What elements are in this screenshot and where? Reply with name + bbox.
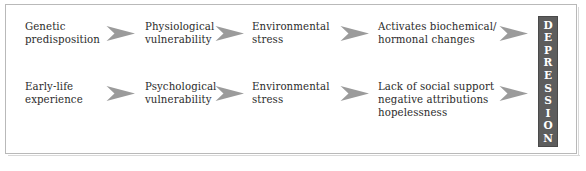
outcome-letter: D <box>543 19 552 32</box>
arrow-right-icon <box>499 84 529 103</box>
figure-root: Genetic predisposition Physiological vul… <box>0 0 586 171</box>
outcome-letter: E <box>544 31 552 44</box>
outcome-letter: S <box>544 82 552 95</box>
stage-lack-of-social-support: Lack of social support negative attribut… <box>378 80 494 120</box>
arrow-right-icon <box>106 84 136 103</box>
stage-psychological-vulnerability: Psychological vulnerability <box>145 80 216 106</box>
arrow-right-icon <box>215 84 245 103</box>
stage-line: Activates biochemical/ <box>378 20 497 33</box>
arrow-right-icon <box>340 24 370 43</box>
arrow-right-icon <box>340 84 370 103</box>
stage-line: predisposition <box>25 33 100 46</box>
pathway-row-biological: Genetic predisposition Physiological vul… <box>0 20 572 76</box>
stage-line: stress <box>252 33 330 46</box>
outcome-letter: S <box>544 94 552 107</box>
arrow-right-icon <box>499 24 529 43</box>
stage-line: Physiological <box>145 20 214 33</box>
stage-activates-biochemical-hormonal-changes: Activates biochemical/ hormonal changes <box>378 20 497 46</box>
stage-line: hormonal changes <box>378 33 497 46</box>
outcome-letter: O <box>543 119 552 132</box>
outcome-letter: I <box>546 107 551 120</box>
arrow-right-icon <box>106 24 136 43</box>
stage-line: Genetic <box>25 20 100 33</box>
stage-line: Psychological <box>145 80 216 93</box>
stage-line: vulnerability <box>145 93 216 106</box>
outcome-letter: E <box>544 69 552 82</box>
stage-line: Environmental <box>252 20 330 33</box>
stage-line: vulnerability <box>145 33 214 46</box>
stage-physiological-vulnerability: Physiological vulnerability <box>145 20 214 46</box>
stage-line: stress <box>252 93 330 106</box>
outcome-letter: R <box>544 56 553 69</box>
arrow-right-icon <box>215 24 245 43</box>
stage-line: Early-life <box>25 80 83 93</box>
stage-environmental-stress-bottom: Environmental stress <box>252 80 330 106</box>
stage-line: hopelessness <box>378 106 494 119</box>
outcome-letter: N <box>543 132 553 145</box>
stage-line: Lack of social support <box>378 80 494 93</box>
stage-environmental-stress-top: Environmental stress <box>252 20 330 46</box>
outcome-depression-box: D E P R E S S I O N <box>538 16 558 147</box>
stage-line: experience <box>25 93 83 106</box>
pathway-row-psychosocial: Early-life experience Psychological vuln… <box>0 80 572 136</box>
frame-shadow-bottom <box>8 155 580 156</box>
stage-line: negative attributions <box>378 93 494 106</box>
stage-line: Environmental <box>252 80 330 93</box>
stage-early-life-experience: Early-life experience <box>25 80 83 106</box>
frame-shadow-right <box>578 7 579 156</box>
stage-genetic-predisposition: Genetic predisposition <box>25 20 100 46</box>
outcome-letter: P <box>544 44 552 57</box>
